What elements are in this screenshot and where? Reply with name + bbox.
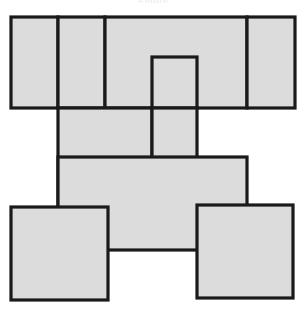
rect-top-left bbox=[11, 17, 58, 108]
rect-bottom-right bbox=[197, 205, 293, 298]
rect-top-second bbox=[58, 17, 105, 108]
geometric-figure: Figure bbox=[0, 0, 307, 312]
rect-bottom-left bbox=[11, 207, 108, 300]
rect-top-right bbox=[247, 17, 295, 108]
figure-canvas bbox=[0, 0, 307, 312]
rectangles-group bbox=[11, 17, 295, 300]
rect-top-inner-small bbox=[152, 57, 197, 108]
